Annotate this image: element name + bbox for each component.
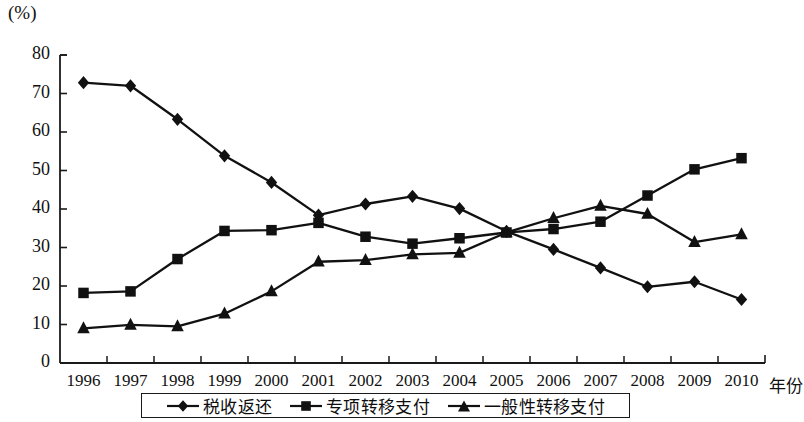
x-tick-label-1996: 1996 — [60, 371, 108, 391]
data-point-square — [172, 254, 183, 264]
legend-item-0: 税收返还 — [166, 393, 272, 418]
data-point-diamond — [78, 76, 89, 89]
data-point-diamond — [595, 261, 606, 274]
data-point-triangle — [124, 318, 137, 330]
y-tick-label-80: 80 — [14, 43, 50, 64]
x-tick-label-2010: 2010 — [718, 371, 766, 391]
data-point-square — [78, 288, 89, 299]
legend-label-0: 税收返还 — [203, 393, 272, 418]
data-point-diamond — [172, 113, 183, 126]
x-axis-title: 年份 — [769, 372, 803, 397]
data-point-diamond — [407, 190, 418, 203]
legend-item-1: 专项转移支付 — [289, 393, 430, 418]
data-point-square — [736, 153, 747, 164]
data-point-square — [642, 190, 653, 201]
x-tick-label-1997: 1997 — [107, 371, 155, 391]
x-tick-label-2005: 2005 — [483, 371, 531, 391]
y-tick-label-40: 40 — [14, 197, 50, 218]
line-chart: (%) 01020304050607080 199619971998199920… — [0, 0, 804, 422]
data-point-diamond — [689, 275, 700, 288]
x-tick-label-2003: 2003 — [389, 371, 437, 391]
data-series-group — [77, 76, 748, 333]
data-point-square — [454, 233, 465, 244]
series-2 — [77, 199, 748, 333]
x-tick-label-2004: 2004 — [436, 371, 484, 391]
data-point-triangle — [735, 227, 748, 239]
data-point-diamond — [266, 176, 277, 189]
legend-label-1: 专项转移支付 — [326, 393, 430, 418]
x-tick-label-2006: 2006 — [530, 371, 578, 391]
data-point-triangle — [594, 199, 607, 211]
data-point-square — [548, 224, 559, 235]
chart-axes — [60, 55, 765, 363]
data-point-triangle — [265, 284, 278, 296]
y-tick-label-10: 10 — [14, 313, 50, 334]
plot-area — [0, 0, 804, 422]
data-point-diamond — [736, 293, 747, 306]
x-tick-label-2000: 2000 — [248, 371, 296, 391]
data-point-square — [266, 225, 277, 236]
y-tick-label-20: 20 — [14, 274, 50, 295]
x-tick-label-2009: 2009 — [671, 371, 719, 391]
x-tick-label-2002: 2002 — [342, 371, 390, 391]
y-tick-label-50: 50 — [14, 159, 50, 180]
square-marker-icon — [289, 399, 323, 413]
data-point-diamond — [125, 79, 136, 92]
data-point-square — [360, 231, 371, 242]
x-tick-label-2008: 2008 — [624, 371, 672, 391]
data-point-diamond — [454, 202, 465, 215]
y-tick-label-60: 60 — [14, 120, 50, 141]
data-point-diamond — [548, 243, 559, 256]
data-point-square — [689, 164, 700, 175]
diamond-marker-icon — [166, 399, 200, 413]
x-tick-label-2007: 2007 — [577, 371, 625, 391]
legend-item-2: 一般性转移支付 — [447, 393, 605, 418]
legend-label-2: 一般性转移支付 — [484, 393, 605, 418]
triangle-marker-icon — [447, 399, 481, 413]
series-1 — [78, 153, 747, 298]
y-tick-label-0: 0 — [14, 351, 50, 372]
x-tick-label-1999: 1999 — [201, 371, 249, 391]
data-point-square — [313, 218, 324, 229]
data-point-square — [125, 286, 136, 297]
x-tick-label-2001: 2001 — [295, 371, 343, 391]
data-point-diamond — [360, 197, 371, 210]
y-tick-label-70: 70 — [14, 82, 50, 103]
data-point-square — [219, 226, 230, 237]
x-tick-label-1998: 1998 — [154, 371, 202, 391]
data-point-diamond — [642, 280, 653, 293]
chart-legend: 税收返还 专项转移支付 一般性转移支付 — [141, 393, 630, 418]
data-point-diamond — [219, 149, 230, 162]
data-point-square — [595, 216, 606, 227]
y-tick-label-30: 30 — [14, 236, 50, 257]
